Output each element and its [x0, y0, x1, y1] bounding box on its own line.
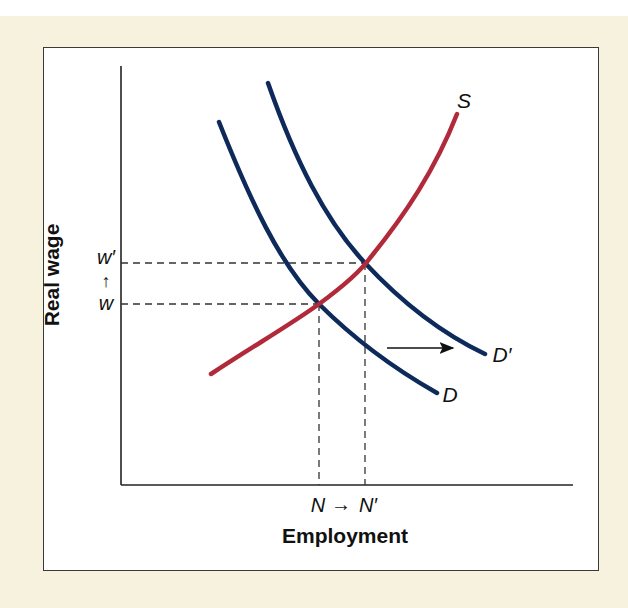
demand-curve-d: [219, 122, 437, 393]
w-tick: w: [99, 292, 113, 315]
up-arrow-icon: ↑: [102, 271, 111, 292]
y-axis-label: Real wage: [40, 224, 64, 327]
n-tick: N: [311, 494, 325, 517]
n-prime-tick: N′: [359, 494, 377, 517]
right-arrow-icon: →: [331, 493, 351, 516]
demand-label: D: [442, 383, 457, 407]
x-axis-label: Employment: [282, 524, 408, 548]
supply-label: S: [457, 89, 471, 113]
demand-shifted-label: D′: [492, 343, 511, 367]
labor-market-chart: [0, 0, 628, 608]
supply-curve-s: [211, 114, 457, 374]
w-prime-tick: w′: [97, 246, 115, 269]
